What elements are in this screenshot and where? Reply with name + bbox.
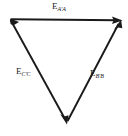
label-emf-top: EA′A [52, 2, 66, 12]
label-left-subscript: C′C [22, 71, 31, 77]
top-edge-line [11, 19, 118, 20]
left-edge-arrowhead [60, 114, 68, 124]
label-emf-right: EB′B [90, 69, 104, 79]
label-top-subscript: A′A [58, 6, 66, 12]
label-right-subscript: B′B [96, 73, 104, 79]
vector-triangle-diagram: EA′A EC′C EB′B [0, 0, 128, 136]
label-emf-left: EC′C [16, 67, 31, 77]
